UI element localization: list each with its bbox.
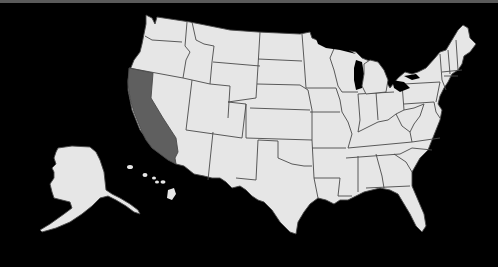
us-map	[0, 0, 498, 267]
state-hawaii[interactable]	[127, 165, 176, 200]
state-lower48-base	[128, 15, 476, 234]
state-michigan[interactable]	[362, 60, 388, 94]
state-alaska[interactable]	[40, 146, 140, 232]
